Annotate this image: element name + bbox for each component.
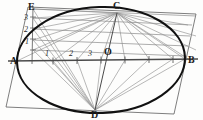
label-scale-div-1: 1 bbox=[25, 38, 29, 46]
label-vertex-c: C bbox=[113, 1, 120, 11]
label-vertex-e: E bbox=[28, 2, 35, 12]
label-vertex-a: A bbox=[10, 56, 17, 66]
label-vertex-b: B bbox=[188, 55, 195, 65]
label-scale-div-3: 3 bbox=[24, 14, 28, 22]
label-axis-div-1: 1 bbox=[45, 50, 49, 58]
label-axis-div-2: 2 bbox=[69, 50, 73, 58]
vertical-scale-line bbox=[30, 6, 36, 64]
label-axis-div-3: 3 bbox=[88, 50, 92, 58]
label-scale-div-2: 2 bbox=[24, 26, 28, 34]
ellipse-construction-figure: A B C D E O 1 2 3 3 2 1 bbox=[0, 0, 203, 120]
geometry-canvas bbox=[0, 0, 203, 120]
minor-axis-cd bbox=[95, 13, 117, 110]
label-center-o: O bbox=[104, 47, 112, 57]
label-vertex-d: D bbox=[91, 110, 98, 120]
major-axis-ab bbox=[8, 56, 198, 65]
